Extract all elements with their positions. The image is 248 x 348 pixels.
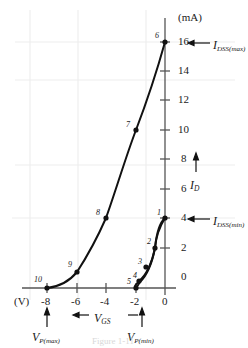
point-label-8: 8 bbox=[96, 209, 100, 217]
point-label-7: 7 bbox=[126, 121, 130, 129]
data-point-6 bbox=[162, 39, 167, 44]
figure-caption: Figure 1-11 bbox=[92, 337, 134, 346]
y-axis-quantity-subscript: D bbox=[194, 184, 199, 193]
data-point-9 bbox=[74, 269, 79, 274]
jfet-transfer-characteristic-figure bbox=[0, 0, 248, 348]
curve-minimum bbox=[135, 218, 165, 288]
point-label-9: 9 bbox=[68, 261, 72, 269]
vp-min-subscript: P(min) bbox=[134, 337, 153, 345]
idss-max-annotation: IDSS(max) bbox=[213, 36, 245, 53]
vp-max-annotation: VP(max) bbox=[32, 328, 60, 345]
point-label-3: 3 bbox=[138, 258, 142, 266]
point-label-2: 2 bbox=[147, 238, 151, 246]
idss-min-subscript: DSS(min) bbox=[217, 221, 244, 229]
y-tick-16: 16 bbox=[178, 36, 189, 47]
y-axis-quantity-label: ID bbox=[190, 176, 199, 192]
x-tick-minus6: -6 bbox=[71, 296, 80, 307]
y-tick-10: 10 bbox=[178, 124, 189, 135]
x-tick-minus8: -8 bbox=[41, 296, 50, 307]
x-tick-0: 0 bbox=[162, 296, 168, 307]
data-point-8 bbox=[103, 215, 108, 220]
point-label-5: 5 bbox=[127, 278, 131, 286]
point-label-10: 10 bbox=[34, 276, 42, 284]
y-tick-2: 2 bbox=[181, 242, 187, 253]
data-point-7 bbox=[133, 127, 138, 132]
data-point-5 bbox=[133, 285, 138, 290]
data-point-2 bbox=[152, 245, 157, 250]
y-tick-12: 12 bbox=[178, 94, 189, 105]
vp-max-subscript: P(max) bbox=[39, 337, 60, 345]
idss-min-annotation: IDSS(min) bbox=[213, 212, 244, 229]
x-tick-minus2: -2 bbox=[130, 296, 139, 307]
idss-max-subscript: DSS(max) bbox=[217, 45, 245, 53]
y-tick-0: 0 bbox=[181, 271, 187, 282]
y-axis-unit-label: (mA) bbox=[178, 12, 202, 23]
x-axis-unit-label: (V) bbox=[14, 296, 29, 307]
data-point-4 bbox=[136, 278, 141, 283]
point-label-6: 6 bbox=[155, 32, 159, 40]
y-tick-6: 6 bbox=[181, 183, 187, 194]
x-axis-quantity-label: VGS bbox=[94, 309, 111, 325]
x-axis-quantity-subscript: GS bbox=[101, 317, 110, 326]
point-label-4: 4 bbox=[133, 272, 137, 280]
y-tick-8: 8 bbox=[181, 153, 187, 164]
data-point-3 bbox=[143, 264, 148, 269]
data-point-10 bbox=[44, 285, 49, 290]
point-label-1: 1 bbox=[157, 209, 161, 217]
y-tick-14: 14 bbox=[178, 65, 189, 76]
y-tick-4: 4 bbox=[181, 212, 187, 223]
background-gridlines bbox=[12, 10, 235, 300]
x-tick-minus4: -4 bbox=[100, 296, 109, 307]
data-point-1 bbox=[162, 215, 167, 220]
